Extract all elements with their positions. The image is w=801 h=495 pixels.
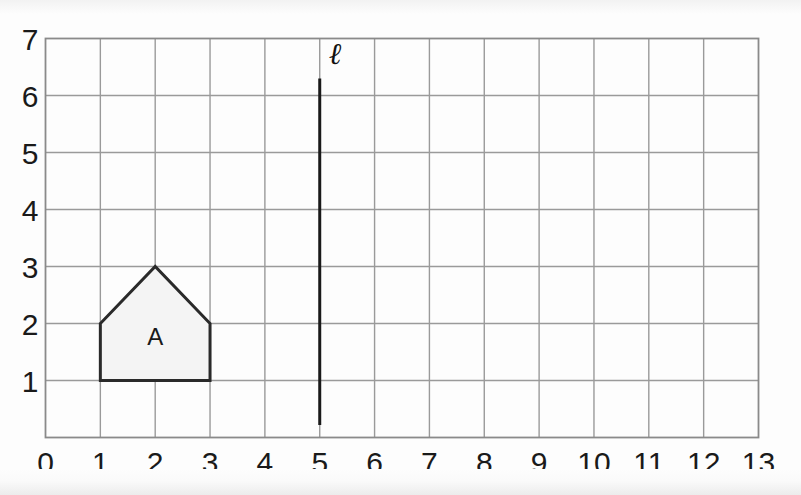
y-tick-label-4: 4 (22, 194, 39, 227)
x-tick-label-13: 13 (742, 446, 775, 479)
x-tick-label-2: 2 (147, 446, 164, 479)
y-tick-label-5: 5 (22, 137, 39, 170)
x-tick-label-1: 1 (92, 446, 109, 479)
x-tick-label-7: 7 (421, 446, 438, 479)
y-tick-label-2: 2 (22, 308, 39, 341)
y-axis-tick-labels: 1234567 (22, 23, 39, 398)
mirror-line-label: ℓ (329, 37, 342, 70)
coordinate-grid-figure: A ℓ 012345678910111213 1234567 (0, 0, 801, 495)
y-tick-label-6: 6 (22, 80, 39, 113)
y-tick-label-3: 3 (22, 251, 39, 284)
worksheet-page: A ℓ 012345678910111213 1234567 (0, 0, 801, 495)
x-tick-label-4: 4 (257, 446, 274, 479)
x-tick-label-6: 6 (366, 446, 383, 479)
x-tick-label-3: 3 (202, 446, 219, 479)
x-tick-label-0: 0 (37, 446, 54, 479)
shapes-layer: A (100, 267, 210, 381)
x-axis-tick-labels: 012345678910111213 (37, 446, 775, 479)
y-tick-label-7: 7 (22, 23, 39, 56)
x-tick-label-5: 5 (311, 446, 328, 479)
x-tick-label-10: 10 (577, 446, 610, 479)
x-tick-label-12: 12 (687, 446, 720, 479)
x-tick-label-11: 11 (633, 446, 664, 479)
y-tick-label-1: 1 (22, 365, 39, 398)
x-tick-label-9: 9 (531, 446, 548, 479)
x-tick-label-8: 8 (476, 446, 493, 479)
shape-label-a: A (147, 323, 163, 350)
